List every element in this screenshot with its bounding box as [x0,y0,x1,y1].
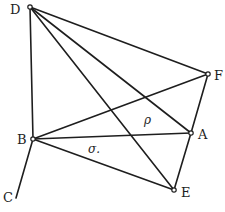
point-label-d: D [10,2,20,17]
point-label-b: B [17,132,27,147]
edge-ba [33,133,191,139]
point-label-e: E [181,185,191,200]
edge-bf [33,74,208,139]
point-label-f: F [214,68,223,83]
point-label-c: C [3,190,13,205]
points-group [28,5,210,192]
vertex-d [28,5,32,9]
edge-be [33,139,174,190]
vertex-f [206,72,210,76]
edge-bc [16,139,33,198]
edge-fa [191,74,208,133]
diagram-canvas: D F A B E C ρ σ. [0,0,225,212]
vertex-e [172,188,176,192]
vertex-a [189,131,193,135]
edges-group [16,7,208,198]
point-label-a: A [197,127,208,142]
sigma-annotation: σ. [88,142,100,156]
edge-ae [174,133,191,190]
rho-annotation: ρ [143,113,151,127]
geometry-diagram: D F A B E C ρ σ. [0,0,225,212]
vertex-b [31,137,35,141]
edge-db [30,7,33,139]
edge-da [30,7,191,133]
